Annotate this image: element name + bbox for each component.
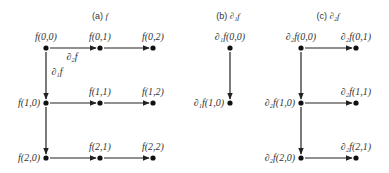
node-label-c-11: ∂₂f(1,1) [341,86,372,98]
edge-label-a-1: ∂₁f [51,66,63,77]
node-label-a-02: f(0,2) [142,31,165,43]
finite-difference-diagram: (a) ff(0,0)f(0,1)f(0,2)f(1,0)f(1,1)f(1,2… [0,0,389,173]
node-dot-a-00 [43,45,48,50]
node-label-c-10: ∂₂f(1,0) [265,97,296,109]
node-label-a-12: f(1,2) [142,86,165,98]
node-dot-a-20 [43,155,48,160]
node-dot-c-01 [353,45,358,50]
node-label-a-10: f(1,0) [18,97,41,109]
node-dot-c-20 [298,155,303,160]
node-label-a-20: f(2,0) [18,152,41,164]
node-dot-c-00 [298,45,303,50]
node-label-c-20: ∂₂f(2,0) [265,152,296,164]
node-dot-a-22 [150,155,155,160]
node-label-a-22: f(2,2) [142,141,165,153]
node-dot-c-21 [353,155,358,160]
node-label-c-00: ∂₂f(0,0) [286,31,317,43]
panel-b-title: (b) ∂₁f [216,11,241,21]
node-dot-b-00 [227,45,232,50]
node-dot-b-10 [227,100,232,105]
node-dot-a-10 [43,100,48,105]
node-dot-a-21 [97,155,102,160]
node-label-b-00: ∂₁f(0,0) [215,31,246,43]
node-dot-c-10 [298,100,303,105]
node-label-c-21: ∂₂f(2,1) [341,141,372,153]
node-label-b-10: ∂₁f(1,0) [194,97,225,109]
panel-a-title: (a) f [92,11,110,21]
node-label-c-01: ∂₂f(0,1) [341,31,372,43]
node-dot-a-01 [97,45,102,50]
node-dot-c-11 [353,100,358,105]
node-dot-a-11 [97,100,102,105]
edge-label-a-0: ∂₂f [66,51,78,62]
node-label-a-00: f(0,0) [35,31,58,43]
node-dot-a-12 [150,100,155,105]
node-label-a-01: f(0,1) [89,31,112,43]
node-label-a-11: f(1,1) [89,86,112,98]
labels-layer: (a) ff(0,0)f(0,1)f(0,2)f(1,0)f(1,1)f(1,2… [18,11,372,164]
panel-c-title: (c) ∂₂f [316,11,341,21]
node-label-a-21: f(2,1) [89,141,112,153]
node-dot-a-02 [150,45,155,50]
